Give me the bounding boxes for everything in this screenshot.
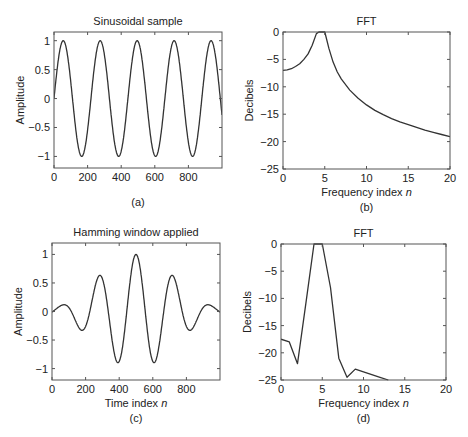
x-tick-label: 5 xyxy=(319,383,325,395)
x-tick-label: 20 xyxy=(440,383,452,395)
x-tick-label: 0 xyxy=(49,383,55,395)
axes-frame xyxy=(52,243,220,380)
y-tick-label: −20 xyxy=(260,136,279,148)
y-tick-label: −1 xyxy=(37,150,50,162)
subplot-caption: (a) xyxy=(131,196,144,208)
x-tick-label: 800 xyxy=(177,383,195,395)
y-tick-label: −0.5 xyxy=(28,121,50,133)
x-tick-label: 10 xyxy=(360,172,372,184)
y-tick-label: 0 xyxy=(42,306,48,318)
x-axis-label: Frequency index n xyxy=(321,186,412,198)
x-tick-label: 600 xyxy=(146,171,164,183)
data-line xyxy=(281,244,388,380)
subplot-caption: (c) xyxy=(130,412,143,424)
x-tick-label: 5 xyxy=(322,172,328,184)
y-tick-label: −10 xyxy=(258,292,277,304)
subplot-caption: (b) xyxy=(360,201,373,213)
y-tick-label: 0.5 xyxy=(33,277,48,289)
y-tick-label: 1 xyxy=(44,35,50,47)
y-axis-label: Decibels xyxy=(243,79,255,122)
chart-title: Hamming window applied xyxy=(73,226,198,238)
y-tick-label: −20 xyxy=(258,347,277,359)
x-tick-label: 600 xyxy=(144,383,162,395)
data-line xyxy=(283,32,450,137)
x-axis-label: Time index n xyxy=(105,397,168,409)
y-tick-label: 0 xyxy=(273,26,279,38)
y-tick-label: 0 xyxy=(44,93,50,105)
y-tick-label: −25 xyxy=(258,374,277,386)
x-tick-label: 0 xyxy=(280,172,286,184)
chart-title: Sinusoidal sample xyxy=(93,15,182,27)
subplot-b: 05101520−25−20−15−10−50FFTDecibelsFreque… xyxy=(243,15,456,213)
x-tick-label: 200 xyxy=(78,171,96,183)
x-tick-label: 400 xyxy=(112,171,130,183)
x-tick-label: 800 xyxy=(179,171,197,183)
subplot-a: 0200400600800−1−0.500.51Sinusoidal sampl… xyxy=(14,15,222,208)
data-line xyxy=(54,41,222,157)
axes-frame xyxy=(54,32,222,168)
x-tick-label: 0 xyxy=(278,383,284,395)
x-tick-label: 400 xyxy=(110,383,128,395)
x-tick-label: 200 xyxy=(76,383,94,395)
x-tick-label: 10 xyxy=(357,383,369,395)
axes-frame xyxy=(281,244,446,380)
y-tick-label: 0 xyxy=(271,238,277,250)
subplot-d: 05101520−25−20−15−10−50FFTDecibelsFreque… xyxy=(241,227,452,424)
y-tick-label: −25 xyxy=(260,163,279,175)
y-tick-label: −15 xyxy=(260,108,279,120)
y-tick-label: 0.5 xyxy=(35,64,50,76)
y-tick-label: −5 xyxy=(266,53,279,65)
y-tick-label: −0.5 xyxy=(26,334,48,346)
y-tick-label: −10 xyxy=(260,81,279,93)
x-tick-label: 0 xyxy=(51,171,57,183)
x-tick-label: 20 xyxy=(444,172,456,184)
y-axis-label: Amplitude xyxy=(14,76,26,125)
y-tick-label: 1 xyxy=(42,248,48,260)
chart-title: FFT xyxy=(353,227,373,239)
subplot-caption: (d) xyxy=(357,412,370,424)
chart-title: FFT xyxy=(356,15,376,27)
x-tick-label: 15 xyxy=(402,172,414,184)
data-line xyxy=(52,254,220,362)
y-tick-label: −5 xyxy=(264,265,277,277)
subplot-c: 0200400600800−1−0.500.51Hamming window a… xyxy=(12,226,220,424)
y-tick-label: −1 xyxy=(35,363,48,375)
y-axis-label: Decibels xyxy=(241,290,253,333)
x-axis-label: Frequency index n xyxy=(318,397,409,409)
figure: 0200400600800−1−0.500.51Sinusoidal sampl… xyxy=(0,0,468,437)
x-tick-label: 15 xyxy=(399,383,411,395)
y-tick-label: −15 xyxy=(258,320,277,332)
y-axis-label: Amplitude xyxy=(12,287,24,336)
